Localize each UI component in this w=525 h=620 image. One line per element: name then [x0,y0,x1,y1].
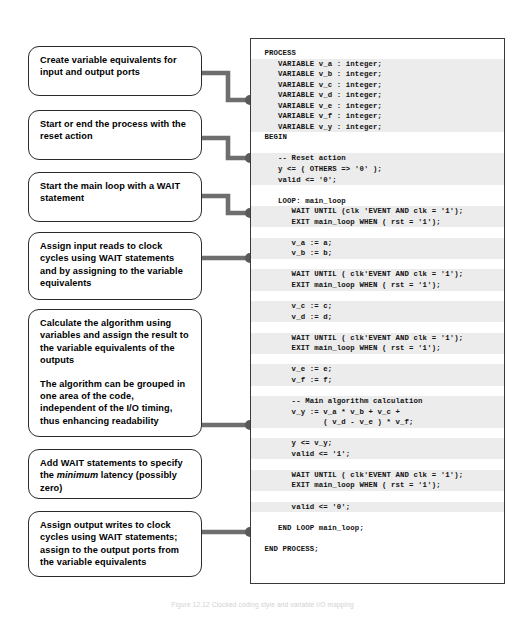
code-line [251,533,504,544]
code-line: VARIABLE v_f : integer; [251,111,504,122]
code-line: LOOP: main_loop [251,196,504,207]
code-line: v_y := v_a * v_b + v_c + [251,407,504,418]
callout-add-wait-statements: Add WAIT statements to specify the minim… [28,449,202,499]
callout-text: Create variable equivalents for input an… [40,54,192,79]
code-line [251,322,504,333]
code-line [251,354,504,365]
callout-paragraph: The algorithm can be grouped in one area… [40,378,192,428]
code-line: valid <= '0'; [251,502,504,513]
callout-assign-output-writes: Assign output writes to clock cycles usi… [28,511,202,577]
callout-paragraph: Calculate the algorithm using variables … [40,317,192,367]
code-line [251,512,504,523]
connector-create-variable-equivalents [202,73,250,100]
code-line: y <= ( OTHERS => '0' ); [251,164,504,175]
code-line: END PROCESS; [251,544,504,555]
code-line: EXIT main_loop WHEN ( rst = '1'); [251,480,504,491]
callout-start-or-end-process: Start or end the process with the reset … [28,110,202,160]
callout-paragraph: Create variable equivalents for input an… [40,54,192,79]
code-line: WAIT UNTIL ( clk'EVENT AND clk = '1'); [251,333,504,344]
code-line: y <= v_y; [251,438,504,449]
code-line [251,428,504,439]
code-line: VARIABLE v_y : integer; [251,122,504,133]
code-line: WAIT UNTIL ( clk'EVENT AND clk = '1'); [251,470,504,481]
callout-text: Calculate the algorithm using variables … [40,317,192,427]
figure-container: Create variable equivalents for input an… [0,0,525,620]
code-line: VARIABLE v_c : integer; [251,80,504,91]
code-line: VARIABLE v_e : integer; [251,101,504,112]
callout-assign-input-reads: Assign input reads to clock cycles using… [28,232,202,300]
callout-paragraph: Start or end the process with the reset … [40,118,192,143]
callout-text: Add WAIT statements to specify the minim… [40,457,192,494]
connector-start-or-end-process [202,138,250,158]
figure-caption: Figure 12.12 Clocked coding style and va… [0,601,525,608]
code-line [251,459,504,470]
code-line: -- Reset action [251,153,504,164]
callout-create-variable-equivalents: Create variable equivalents for input an… [28,46,202,96]
code-line: BEGIN [251,132,504,143]
code-line [251,491,504,502]
code-line: v_e := e; [251,364,504,375]
code-line: v_a := a; [251,238,504,249]
callout-paragraph: Assign output writes to clock cycles usi… [40,519,192,569]
code-line [251,291,504,302]
code-line: v_d := d; [251,312,504,323]
code-line: v_c := c; [251,301,504,312]
code-line: EXIT main_loop WHEN ( rst = '1'); [251,343,504,354]
code-line: END LOOP main_loop; [251,523,504,534]
callout-paragraph: Assign input reads to clock cycles using… [40,240,192,290]
code-line: ( v_d - v_e ) * v_f; [251,417,504,428]
code-line: VARIABLE v_d : integer; [251,90,504,101]
callout-text: Assign input reads to clock cycles using… [40,240,192,290]
code-line [251,143,504,154]
callout-text: Start the main loop with a WAIT statemen… [40,180,192,205]
code-line: WAIT UNTIL (clk 'EVENT AND clk = '1'); [251,206,504,217]
code-line: VARIABLE v_b : integer; [251,69,504,80]
code-line [251,259,504,270]
code-line [251,386,504,397]
callout-text: Start or end the process with the reset … [40,118,192,143]
code-line: v_b := b; [251,248,504,259]
code-panel: PROCESS VARIABLE v_a : integer; VARIABLE… [250,38,505,584]
code-listing: PROCESS VARIABLE v_a : integer; VARIABLE… [251,39,504,554]
code-line: EXIT main_loop WHEN ( rst = '1'); [251,280,504,291]
callout-start-main-loop: Start the main loop with a WAIT statemen… [28,172,202,222]
code-line: VARIABLE v_a : integer; [251,59,504,70]
code-line [251,227,504,238]
code-line: valid <= '0'; [251,175,504,186]
code-line: EXIT main_loop WHEN ( rst = '1'); [251,217,504,228]
connector-start-main-loop [202,196,250,213]
callout-paragraph: Start the main loop with a WAIT statemen… [40,180,192,205]
callout-text: Assign output writes to clock cycles usi… [40,519,192,569]
code-line: v_f := f; [251,375,504,386]
code-line: WAIT UNTIL ( clk'EVENT AND clk = '1'); [251,269,504,280]
code-line: PROCESS [251,48,504,59]
code-line: -- Main algorithm calculation [251,396,504,407]
callout-calculate-algorithm: Calculate the algorithm using variables … [28,309,202,437]
code-line: valid <= '1'; [251,449,504,460]
callout-paragraph: Add WAIT statements to specify the minim… [40,457,192,494]
code-line [251,185,504,196]
